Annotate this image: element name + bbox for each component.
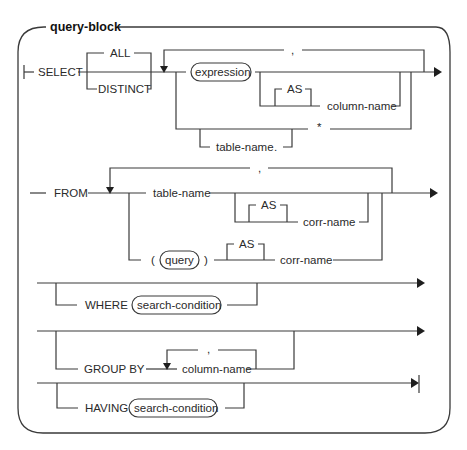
select-continue-arrow-icon — [434, 67, 442, 77]
select-comma: , — [291, 44, 294, 56]
select-keyword: SELECT — [38, 66, 83, 78]
query-label: query — [165, 254, 194, 266]
from-clause: FROM , table-name AS corr-name ( query )… — [30, 162, 438, 269]
having-clause: HAVING search-condition — [37, 375, 419, 417]
from-keyword: FROM — [54, 187, 88, 199]
all-keyword: ALL — [110, 47, 131, 59]
from-table-name-label: table-name — [153, 187, 211, 199]
close-paren: ) — [204, 254, 208, 266]
expression-label: expression — [195, 66, 251, 78]
from-as-keyword-1: AS — [261, 199, 277, 211]
from-as-keyword-2: AS — [239, 238, 255, 250]
star-symbol: * — [317, 121, 322, 133]
select-clause: SELECT ALL DISTINCT , expression AS colu… — [24, 44, 442, 153]
as-keyword: AS — [287, 83, 303, 95]
distinct-keyword: DISTINCT — [98, 83, 151, 95]
table-name-label: table-name — [216, 141, 274, 153]
where-continue-arrow-icon — [417, 278, 425, 288]
column-name-label: column-name — [327, 100, 397, 112]
having-condition-label: search-condition — [134, 402, 218, 414]
group-by-clause: GROUP BY , column-name — [37, 326, 425, 375]
from-comma: , — [258, 162, 261, 174]
group-by-column-name: column-name — [182, 363, 252, 375]
open-paren: ( — [151, 254, 155, 266]
diagram-title: query-block — [50, 20, 121, 34]
dot-symbol: . — [274, 141, 277, 153]
group-by-keyword: GROUP BY — [84, 363, 145, 375]
from-corr-name-1: corr-name — [303, 216, 355, 228]
from-corr-name-2: corr-name — [280, 254, 332, 266]
having-keyword: HAVING — [85, 402, 128, 414]
query-block-diagram: query-block SELECT ALL DISTINCT , expres… — [0, 0, 467, 450]
having-end-arrow-icon — [411, 378, 419, 388]
where-keyword: WHERE — [85, 299, 128, 311]
where-condition-label: search-condition — [137, 299, 221, 311]
from-continue-arrow-icon — [430, 188, 438, 198]
group-by-comma: , — [207, 343, 210, 355]
group-by-continue-arrow-icon — [417, 326, 425, 336]
where-clause: WHERE search-condition — [37, 278, 425, 314]
